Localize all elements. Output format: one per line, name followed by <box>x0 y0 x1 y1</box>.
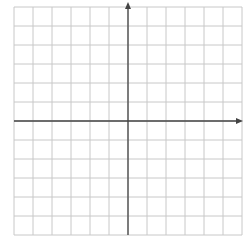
coordinate-grid <box>0 0 244 237</box>
y-axis-arrow-icon <box>125 2 131 9</box>
